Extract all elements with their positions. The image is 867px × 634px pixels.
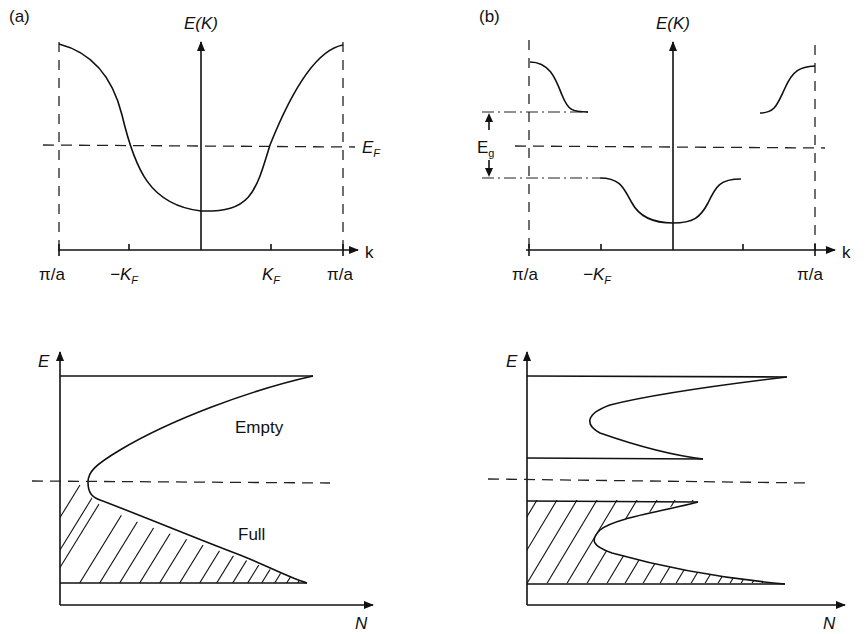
panel-b-tick-right: π/a: [797, 265, 823, 284]
dos-b-lower-band-curve: [594, 502, 785, 584]
dos-a-y-axis-label: E: [38, 352, 50, 371]
panel-a-y-axis-label: E(K): [184, 14, 218, 33]
gap-arrow-down-head: [485, 168, 493, 177]
dos-a-hatch-full: [0, 470, 368, 615]
panel-b-tick-left: π/a: [512, 265, 538, 284]
band-diagram-figure: (a) E(K) k EF π/a −KF KF π/a (b) E(K) k …: [0, 0, 867, 634]
dos-b-upper-band-top: [527, 376, 787, 377]
gap-arrow-up-head: [485, 113, 493, 122]
dos-b-y-axis-label: E: [506, 352, 518, 371]
panel-a-tick-right: π/a: [327, 265, 353, 284]
panel-b-x-axis-label: k: [842, 243, 851, 262]
dos-a-curve: [88, 376, 313, 583]
panel-a-label: (a): [9, 7, 30, 26]
panel-b-tick-neg-kf: −KF: [583, 265, 612, 286]
panel-a-tick-left: π/a: [39, 265, 65, 284]
panel-a-fermi-level: [43, 145, 355, 147]
dos-b-upper-band-bottom: [527, 458, 703, 459]
dos-b-upper-band-curve: [590, 377, 787, 459]
panel-b-y-axis-label: E(K): [656, 14, 690, 33]
panel-b-density-of-states: E N: [480, 352, 845, 633]
dos-b-midgap-level: [488, 479, 810, 483]
panel-b-band-structure: (b) E(K) k Eg π/a −KF π/a: [477, 7, 851, 286]
panel-b-midgap-level: [515, 146, 825, 148]
panel-a-density-of-states: E N Empty Full: [0, 352, 373, 633]
panel-b-label: (b): [479, 7, 500, 26]
panel-b-gap-label: Eg: [477, 138, 494, 159]
panel-a-band-structure: (a) E(K) k EF π/a −KF KF π/a: [9, 7, 381, 286]
dos-b-hatch-full: [480, 495, 815, 595]
panel-b-lower-band: [600, 178, 741, 223]
dos-a-x-axis-label: N: [355, 614, 368, 633]
dos-b-x-axis-label: N: [823, 614, 836, 633]
panel-b-upper-band-left: [530, 62, 588, 112]
dos-a-fermi-level: [32, 481, 330, 483]
dos-a-full-label: Full: [238, 525, 265, 544]
dos-a-empty-label: Empty: [235, 418, 284, 437]
dos-b-lower-band-top: [527, 501, 698, 502]
panel-a-tick-kf: KF: [262, 265, 281, 286]
panel-a-tick-neg-kf: −KF: [110, 265, 139, 286]
panel-a-fermi-label: EF: [362, 138, 381, 159]
panel-a-x-axis-label: k: [365, 243, 374, 262]
panel-b-upper-band-right: [760, 66, 815, 113]
